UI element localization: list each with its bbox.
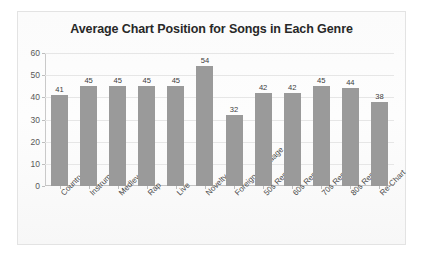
bar[interactable] <box>284 93 301 186</box>
y-axis-tick-mark <box>42 164 45 165</box>
bar[interactable] <box>313 86 330 186</box>
y-axis-tick-label: 20 <box>18 137 40 147</box>
bar-value-label: 41 <box>43 85 77 94</box>
y-axis-tick-label: 0 <box>18 181 40 191</box>
chart-title: Average Chart Position for Songs in Each… <box>18 22 405 36</box>
y-axis-tick-label: 10 <box>18 159 40 169</box>
y-axis-tick-mark <box>42 120 45 121</box>
bar-value-label: 45 <box>159 76 193 85</box>
bar[interactable] <box>167 86 184 186</box>
chart-panel: Average Chart Position for Songs in Each… <box>17 11 406 245</box>
bar[interactable] <box>371 102 388 186</box>
y-axis-tick-mark <box>42 186 45 187</box>
y-axis-tick-mark <box>42 142 45 143</box>
bar[interactable] <box>342 88 359 186</box>
bar[interactable] <box>109 86 126 186</box>
y-axis-tick-mark <box>42 75 45 76</box>
bar[interactable] <box>138 86 155 186</box>
bar[interactable] <box>255 93 272 186</box>
y-axis-tick-label: 30 <box>18 115 40 125</box>
bar-value-label: 32 <box>217 105 251 114</box>
gridline <box>45 53 394 54</box>
y-axis-tick-label: 50 <box>18 70 40 80</box>
bar-value-label: 38 <box>362 92 396 101</box>
bar[interactable] <box>226 115 243 186</box>
bar[interactable] <box>80 86 97 186</box>
plot-area: 010203040506041Country45Instrumental45Me… <box>45 53 394 186</box>
bar[interactable] <box>196 66 213 186</box>
y-axis-tick-label: 40 <box>18 92 40 102</box>
bar-value-label: 54 <box>188 56 222 65</box>
y-axis-tick-mark <box>42 53 45 54</box>
bar-value-label: 44 <box>333 78 367 87</box>
y-axis-tick-mark <box>42 97 45 98</box>
bar[interactable] <box>51 95 68 186</box>
y-axis-tick-label: 60 <box>18 48 40 58</box>
